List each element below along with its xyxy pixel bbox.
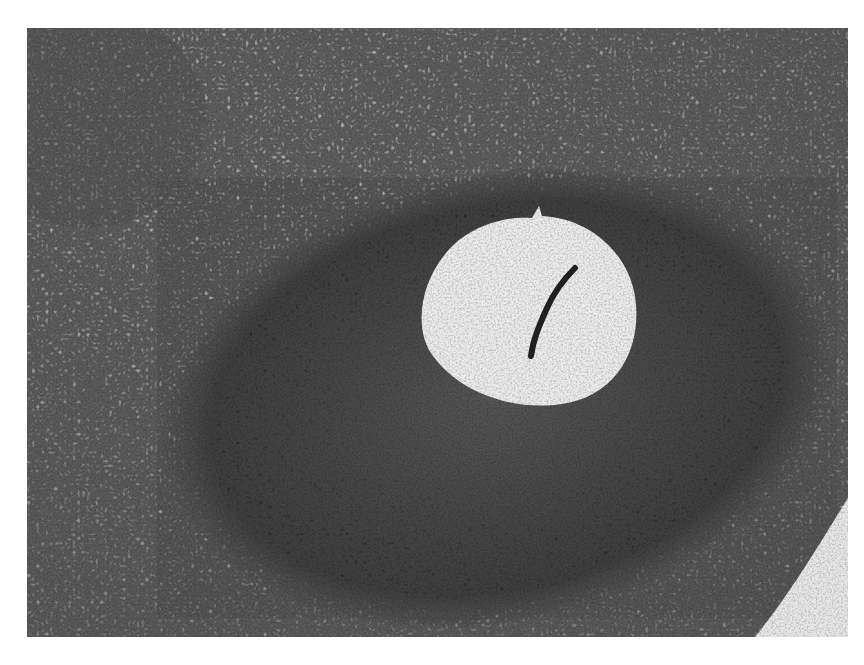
micrograph-canvas bbox=[27, 28, 848, 637]
film-grain bbox=[27, 28, 848, 637]
histology-micrograph bbox=[27, 28, 848, 637]
